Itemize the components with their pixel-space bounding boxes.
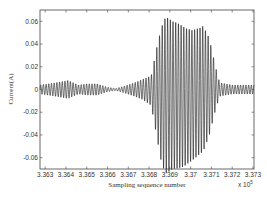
plot-area — [40, 18, 254, 173]
x-multiplier-base: x 10 — [238, 181, 251, 188]
x-tick-label: 3.371 — [203, 171, 220, 178]
x-tick-label: 3.373 — [245, 171, 262, 178]
x-tick-label: 3.367 — [120, 171, 137, 178]
y-tick-label: -0.06 — [23, 154, 38, 161]
y-tick-label: 0.06 — [25, 18, 38, 25]
x-tick-label: 3.366 — [99, 171, 116, 178]
x-tick-label: 3.365 — [79, 171, 96, 178]
x-axis-label: Sampling sequence number — [108, 181, 186, 189]
y-tick-label: -0.02 — [23, 108, 38, 115]
x-tick-label: 3.364 — [58, 171, 75, 178]
x-multiplier-exponent: 5 — [250, 180, 253, 185]
current-waveform-chart: 3.3633.3643.3653.3663.3673.3683.3693.373… — [0, 0, 267, 204]
y-tick-label: -0.04 — [23, 131, 38, 138]
y-tick-label: 0.02 — [25, 63, 38, 70]
y-tick-label: 0.04 — [25, 40, 38, 47]
series-line-current — [40, 18, 254, 173]
x-tick-label: 3.37 — [184, 171, 197, 178]
x-tick-label: 3.368 — [141, 171, 158, 178]
x-tick-label: 3.372 — [224, 171, 241, 178]
x-tick-label: 3.369 — [162, 171, 179, 178]
x-multiplier-label: x 105 — [238, 180, 253, 188]
axes-frame — [40, 10, 254, 169]
y-axis-label: Current(A) — [7, 73, 15, 105]
y-tick-label: 0 — [34, 86, 38, 93]
x-tick-label: 3.363 — [37, 171, 54, 178]
